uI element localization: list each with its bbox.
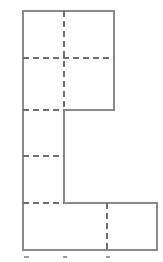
bottom-tick-speck-right (106, 256, 110, 258)
geometric-figure-canvas (0, 0, 163, 262)
stepped-l-polygon-outline (23, 11, 157, 250)
bottom-tick-speck-center (63, 256, 67, 258)
bottom-tick-speck-left (24, 256, 29, 258)
figure-svg (0, 0, 163, 262)
